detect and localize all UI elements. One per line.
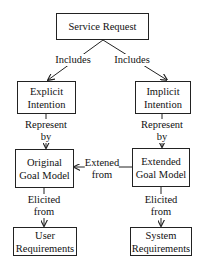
node-label-line2: Requirements — [16, 242, 74, 255]
edge-label-line2: from — [85, 169, 119, 181]
edge-label-line1: Extened — [85, 157, 119, 169]
node-label-line1: Implicit — [146, 85, 179, 98]
edge-label-represent-right: Represent by — [141, 119, 183, 143]
edge-label-line2: from — [145, 206, 178, 218]
node-label-line2: Intention — [144, 98, 182, 111]
node-service-request: Service Request — [56, 13, 149, 40]
node-label-line2: Goal Model — [136, 168, 186, 181]
edge-label-represent-left: Represent by — [25, 119, 67, 143]
node-implicit-intention: Implicit Intention — [135, 81, 191, 114]
edge-label-line1: Represent — [141, 119, 183, 131]
node-label-line1: System — [146, 229, 177, 242]
edge-label-line2: from — [28, 206, 61, 218]
node-system-requirements: System Requirements — [130, 227, 192, 256]
edge-label-includes-left: Includes — [55, 54, 91, 66]
node-label-line1: Original — [27, 156, 62, 169]
node-label-line1: User — [35, 229, 55, 242]
node-user-requirements: User Requirements — [13, 227, 77, 256]
node-service-request-label: Service Request — [69, 20, 137, 33]
edge-label-line1: Elicited — [145, 194, 178, 206]
node-label-line2: Goal Model — [19, 169, 69, 182]
node-extended-goal-model: Extended Goal Model — [132, 148, 190, 187]
edge-label-extended-from: Extened from — [85, 157, 119, 181]
edge-label-elicited-right: Elicited from — [145, 194, 178, 218]
edge-label-line1: Elicited — [28, 194, 61, 206]
node-original-goal-model: Original Goal Model — [15, 149, 74, 188]
edge-label-line2: by — [25, 131, 67, 143]
node-label-line1: Explicit — [30, 85, 63, 98]
node-label-line2: Requirements — [132, 242, 190, 255]
node-label-line2: Intention — [28, 98, 66, 111]
edge-label-includes-right: Includes — [114, 54, 150, 66]
node-explicit-intention: Explicit Intention — [17, 81, 76, 114]
edge-label-elicited-left: Elicited from — [28, 194, 61, 218]
edge-label-line2: by — [141, 131, 183, 143]
node-label-line1: Extended — [141, 155, 181, 168]
edge-label-line1: Represent — [25, 119, 67, 131]
